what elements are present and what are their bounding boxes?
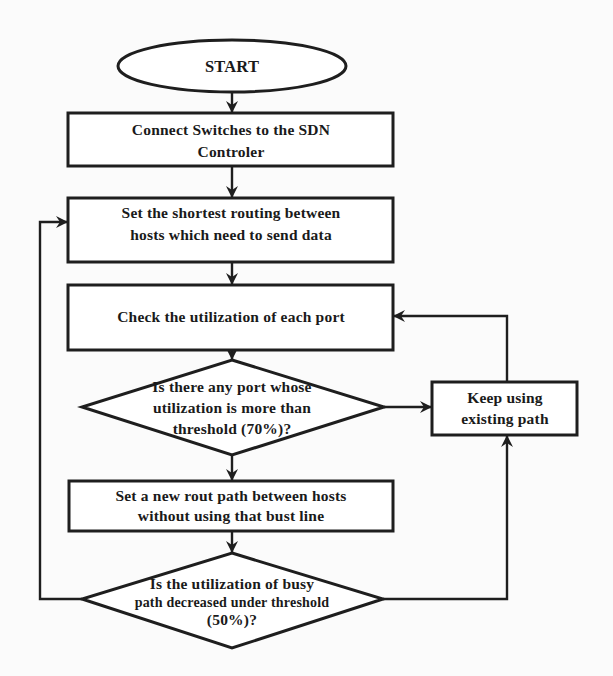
node-connect-switches: Connect Switches to the SDN Controler	[68, 113, 393, 166]
start-label: START	[205, 57, 259, 76]
decision2-label-line2: path decreased under threshold	[135, 595, 330, 610]
keep-label-line2: existing path	[461, 410, 549, 427]
keep-label-line1: Keep using	[467, 389, 543, 406]
shortest-routing-label-line1: Set the shortest routing between	[122, 204, 341, 221]
edge-keep-to-check	[394, 316, 507, 381]
node-decision-threshold-50: Is the utilization of busy path decrease…	[82, 553, 383, 648]
flowchart: START Connect Switches to the SDN Contro…	[0, 0, 613, 676]
decision1-label-line3: threshold (70%)?	[173, 420, 292, 438]
node-set-new-route: Set a new rout path between hosts withou…	[69, 481, 393, 531]
check-utilization-label: Check the utilization of each port	[117, 308, 345, 325]
new-route-label-line1: Set a new rout path between hosts	[115, 487, 346, 504]
connect-switches-label-line1: Connect Switches to the SDN	[132, 121, 330, 138]
edge-decision2-to-shortest	[40, 222, 82, 599]
decision2-label-line3: (50%)?	[207, 611, 257, 629]
node-keep-existing-path: Keep using existing path	[432, 382, 577, 435]
decision1-label-line1: Is there any port whose	[152, 378, 311, 395]
decision1-label-line2: utilization is more than	[153, 399, 311, 416]
node-start: START	[118, 40, 346, 92]
node-check-utilization: Check the utilization of each port	[68, 285, 393, 350]
decision2-label-line1: Is the utilization of busy	[150, 575, 315, 592]
new-route-label-line2: without using that bust line	[138, 507, 324, 524]
node-decision-threshold-70: Is there any port whose utilization is m…	[82, 360, 384, 455]
edge-decision2-to-keep	[383, 436, 507, 599]
connect-switches-label-line2: Controler	[198, 143, 265, 160]
node-shortest-routing: Set the shortest routing between hosts w…	[68, 198, 393, 262]
shortest-routing-label-line2: hosts which need to send data	[130, 226, 332, 243]
